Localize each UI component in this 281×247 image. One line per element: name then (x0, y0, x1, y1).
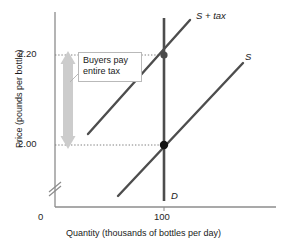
y-tick-label-220: 2.20 (18, 49, 37, 60)
curve-label-supply: S (245, 52, 251, 63)
x-axis-title: Quantity (thousands of bottles per day) (66, 228, 221, 238)
origin-label: 0 (38, 212, 43, 223)
y-tick-label-200: 2.00 (18, 139, 37, 150)
tax-gap-arrow-icon (61, 51, 76, 149)
x-tick-label-100: 100 (154, 212, 170, 223)
equilibrium-marker-no-tax (160, 141, 168, 149)
curve-supply (118, 63, 243, 196)
curve-label-demand: D (171, 191, 178, 202)
chart-canvas (0, 0, 281, 247)
equilibrium-marker-with-tax (160, 51, 167, 58)
y-axis-title: Price (pounds per bottle) (14, 49, 24, 148)
supply-demand-tax-chart: Price (pounds per bottle) Quantity (thou… (0, 0, 281, 247)
curve-label-supply-plus-tax: S + tax (196, 11, 226, 22)
annotation-buyers-pay-entire-tax: Buyers pay entire tax (78, 52, 142, 82)
